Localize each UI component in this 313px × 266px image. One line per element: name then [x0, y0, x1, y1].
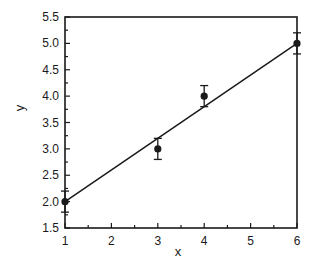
y-tick-label: 2.5	[42, 168, 59, 182]
y-tick-label: 4.0	[42, 89, 59, 103]
x-axis-label: x	[175, 244, 182, 259]
y-axis-label: y	[12, 104, 27, 111]
x-tick-label: 2	[108, 234, 115, 248]
data-point	[200, 86, 208, 107]
x-tick-label: 3	[154, 234, 161, 248]
x-tick-label: 6	[294, 234, 301, 248]
data-point	[154, 138, 162, 159]
y-tick-label: 1.5	[42, 221, 59, 235]
y-tick-label: 3.5	[42, 116, 59, 130]
fit-line	[65, 43, 297, 201]
x-tick-label: 1	[62, 234, 69, 248]
x-tick-label: 4	[201, 234, 208, 248]
data-point	[61, 191, 69, 212]
y-tick-label: 4.5	[42, 63, 59, 77]
y-tick-label: 2.0	[42, 195, 59, 209]
y-tick-label: 5.5	[42, 10, 59, 24]
chart: 1234561.52.02.53.03.54.04.55.05.5 x y	[0, 0, 313, 266]
y-tick-label: 3.0	[42, 142, 59, 156]
x-tick-label: 5	[247, 234, 254, 248]
data-point	[293, 33, 301, 54]
y-tick-label: 5.0	[42, 36, 59, 50]
